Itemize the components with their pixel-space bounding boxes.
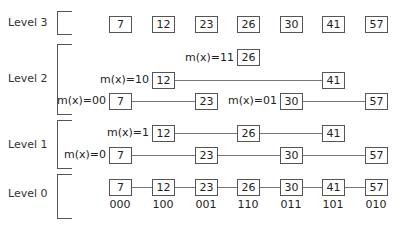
level-3-bracket xyxy=(57,11,72,35)
l2-node: 26 xyxy=(237,49,260,66)
l0-node: 26 xyxy=(237,179,260,196)
level-0-label: Level 0 xyxy=(8,187,48,200)
l1-node: 41 xyxy=(322,125,345,142)
l0-node: 57 xyxy=(365,179,388,196)
l0-code: 001 xyxy=(191,198,221,211)
l2-link xyxy=(302,101,365,102)
l3-node: 26 xyxy=(237,16,260,33)
l0-code: 010 xyxy=(361,198,391,211)
l2-node: 12 xyxy=(152,72,175,89)
l0-code: 000 xyxy=(105,198,135,211)
l2-node: 41 xyxy=(322,72,345,89)
level-1-label: Level 1 xyxy=(8,138,48,151)
l2-node: 7 xyxy=(109,93,132,110)
l1-link xyxy=(131,155,365,156)
l0-node: 12 xyxy=(152,179,175,196)
l3-node: 23 xyxy=(195,16,218,33)
l2-mx-01: m(x)=01 xyxy=(228,94,277,107)
level-2-label: Level 2 xyxy=(8,72,48,85)
l0-code: 100 xyxy=(148,198,178,211)
l3-node: 12 xyxy=(152,16,175,33)
l2-mx-10: m(x)=10 xyxy=(100,73,149,86)
level-3-label: Level 3 xyxy=(8,16,48,29)
l1-node: 12 xyxy=(152,125,175,142)
l0-code: 110 xyxy=(233,198,263,211)
l1-mx-1: m(x)=1 xyxy=(107,126,149,139)
l2-node: 23 xyxy=(195,93,218,110)
l0-code: 101 xyxy=(318,198,348,211)
l2-node: 30 xyxy=(280,93,303,110)
l1-node: 26 xyxy=(237,125,260,142)
l1-mx-0: m(x)=0 xyxy=(64,148,106,161)
l3-node: 57 xyxy=(365,16,388,33)
l1-node: 30 xyxy=(280,147,303,164)
l2-link xyxy=(174,80,322,81)
l1-node: 23 xyxy=(195,147,218,164)
level-0-bracket xyxy=(57,174,72,219)
level-1-bracket xyxy=(57,120,72,169)
l2-link xyxy=(131,101,195,102)
l0-code: 011 xyxy=(276,198,306,211)
l0-node: 41 xyxy=(322,179,345,196)
l2-mx-00: m(x)=00 xyxy=(57,94,106,107)
l0-node: 7 xyxy=(109,179,132,196)
l3-node: 7 xyxy=(109,16,132,33)
l1-node: 57 xyxy=(365,147,388,164)
l1-node: 7 xyxy=(109,147,132,164)
l2-mx-11: m(x)=11 xyxy=(185,51,234,64)
l0-node: 30 xyxy=(280,179,303,196)
l2-node: 57 xyxy=(365,93,388,110)
l3-node: 41 xyxy=(322,16,345,33)
l3-node: 30 xyxy=(280,16,303,33)
l0-node: 23 xyxy=(195,179,218,196)
